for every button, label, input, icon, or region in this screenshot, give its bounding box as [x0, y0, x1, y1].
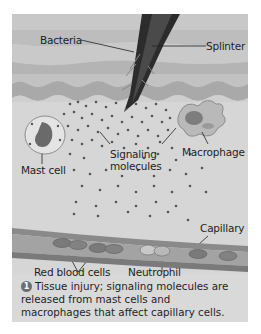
inflammation-illustration	[12, 14, 248, 274]
label-macrophage: Macrophage	[182, 146, 245, 158]
label-neutrophil: Neutrophil	[128, 266, 181, 278]
label-mast-cell: Mast cell	[21, 164, 66, 176]
label-bacteria: Bacteria	[40, 34, 82, 46]
label-splinter: Splinter	[206, 40, 245, 52]
figure-panel: Bacteria Splinter Mast cell Signaling mo…	[12, 14, 248, 322]
label-red-blood-cells: Red blood cells	[34, 266, 110, 278]
step-number-badge: 1	[21, 281, 32, 292]
label-capillary: Capillary	[200, 222, 244, 234]
label-signaling-line2: molecules	[110, 160, 162, 172]
figure-caption: 1Tissue injury; signaling molecules are …	[21, 280, 243, 319]
label-signaling-line1: Signaling	[110, 148, 157, 160]
caption-text: Tissue injury; signaling molecules are r…	[21, 280, 228, 318]
